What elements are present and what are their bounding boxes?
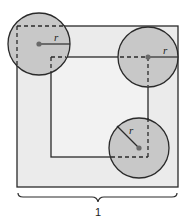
brace — [18, 193, 177, 202]
radius-label: r — [163, 44, 168, 56]
circle-top-left: r — [8, 13, 70, 75]
radius-label: r — [54, 31, 59, 43]
circle-bottom-right: r — [109, 118, 169, 178]
radius-label: r — [129, 124, 134, 136]
square-circles-diagram: r r r 1 — [0, 0, 187, 222]
side-length-label: 1 — [95, 206, 101, 218]
circle-top-right: r — [118, 27, 178, 87]
